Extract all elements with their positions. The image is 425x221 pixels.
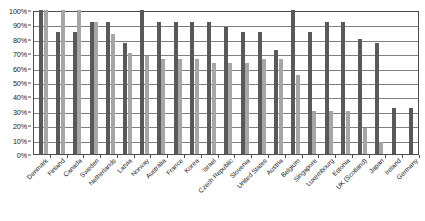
bar <box>140 10 144 154</box>
y-axis-tick-mark <box>28 68 31 69</box>
y-axis-tick-mark <box>28 39 31 40</box>
x-axis-tick-mark <box>50 155 51 158</box>
bar <box>245 63 249 154</box>
y-axis-tick-label: 0% <box>17 151 27 160</box>
bars-layer <box>34 12 418 154</box>
bar-group <box>73 12 82 154</box>
bar-group <box>409 12 418 154</box>
y-axis-tick-mark <box>28 11 31 12</box>
bar <box>212 63 216 154</box>
x-axis-tick-label: Denmark <box>26 157 50 181</box>
x-axis-tick-label: Sweden <box>78 157 100 179</box>
bar <box>161 59 165 154</box>
x-axis-tick-label: UK (Scotland) <box>335 157 369 191</box>
x-axis-tick-label: Japan <box>368 157 385 174</box>
x-axis-tick-mark <box>134 155 135 158</box>
x-axis-tick-label: Estonia <box>331 157 351 177</box>
bar <box>123 43 127 154</box>
bar-group <box>56 12 65 154</box>
bar <box>279 59 283 154</box>
bar-group <box>308 12 317 154</box>
bar-group <box>174 12 183 154</box>
bar <box>39 10 43 154</box>
bar <box>262 59 266 154</box>
bar <box>178 59 182 154</box>
x-axis-tick-label: France <box>164 157 183 176</box>
y-axis-tick-mark <box>28 126 31 127</box>
bar-group <box>392 12 401 154</box>
x-axis-tick-label: Canada <box>62 157 83 178</box>
bar <box>207 22 211 154</box>
x-axis-tick-label: Israel <box>201 157 217 173</box>
x-axis-tick-mark <box>302 155 303 158</box>
bar <box>56 32 60 154</box>
y-axis-tick-label: 100% <box>9 7 27 16</box>
y-axis: 100%90%80%70%60%50%40%30%20%10%0% <box>0 11 31 155</box>
bar <box>73 32 77 154</box>
bar-group <box>274 12 283 154</box>
bar <box>409 108 413 154</box>
x-axis-tick-label: United States <box>235 157 267 189</box>
bar <box>241 32 245 154</box>
bar <box>94 22 98 154</box>
y-axis-tick-mark <box>28 140 31 141</box>
bar <box>274 50 278 154</box>
bar <box>312 111 316 154</box>
bar <box>379 142 383 154</box>
bar-group <box>258 12 267 154</box>
bar <box>44 10 48 154</box>
y-axis-tick-label: 90% <box>13 21 27 30</box>
y-axis-tick-label: 60% <box>13 64 27 73</box>
bar <box>258 32 262 154</box>
x-axis-tick-label: Luxembourg <box>304 157 335 188</box>
bar-group <box>358 12 367 154</box>
bar-group <box>190 12 199 154</box>
bar-group <box>325 12 334 154</box>
y-axis-tick-mark <box>28 83 31 84</box>
x-axis-tick-mark <box>268 155 269 158</box>
bar-group <box>123 12 132 154</box>
x-axis-tick-label: Ireland <box>383 157 402 176</box>
x-axis-tick-mark <box>117 155 118 158</box>
bar <box>145 56 149 154</box>
x-axis-tick-label: Slovenia <box>228 157 251 180</box>
y-axis-tick-label: 40% <box>13 93 27 102</box>
bar <box>363 128 367 154</box>
y-axis-tick-mark <box>28 54 31 55</box>
x-axis-tick-label: Austria <box>265 157 284 176</box>
bar-group <box>140 12 149 154</box>
bar <box>174 22 178 154</box>
x-axis-tick-mark <box>167 155 168 158</box>
bar <box>77 10 81 154</box>
x-axis-tick-label: Germany <box>395 157 419 181</box>
x-axis-tick-label: Finland <box>46 157 66 177</box>
x-axis-tick-mark <box>100 155 101 158</box>
x-axis-tick-mark <box>251 155 252 158</box>
bar <box>392 108 396 154</box>
bar-group <box>241 12 250 154</box>
bar-group <box>224 12 233 154</box>
x-axis-tick-mark <box>150 155 151 158</box>
bar <box>325 22 329 154</box>
bar <box>296 75 300 154</box>
x-axis-tick-mark <box>201 155 202 158</box>
bar <box>61 10 65 154</box>
y-axis-tick-label: 80% <box>13 35 27 44</box>
y-axis-tick-mark <box>28 111 31 112</box>
bar <box>329 111 333 154</box>
x-axis-tick-label: Latvia <box>116 157 133 174</box>
bar <box>228 63 232 154</box>
x-axis-tick-mark <box>402 155 403 158</box>
bar <box>128 53 132 154</box>
y-axis-tick-label: 70% <box>13 50 27 59</box>
bar-chart: 100%90%80%70%60%50%40%30%20%10%0% Denmar… <box>0 0 425 221</box>
x-axis-tick-mark <box>369 155 370 158</box>
y-axis-tick-label: 50% <box>13 79 27 88</box>
x-axis-tick-label: Belgium <box>280 157 302 179</box>
x-axis-tick-label: Norway <box>129 157 150 178</box>
bar <box>358 39 362 154</box>
x-axis-tick-mark <box>335 155 336 158</box>
bar <box>90 22 94 154</box>
y-axis-tick-mark <box>28 155 31 156</box>
x-axis-tick-mark <box>184 155 185 158</box>
